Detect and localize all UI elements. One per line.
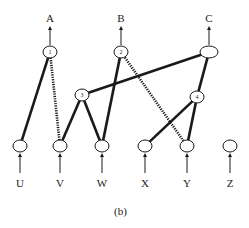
- output-label: B: [117, 12, 124, 24]
- input-arrow-icon: [58, 153, 62, 173]
- input-arrow-icon: [18, 153, 22, 173]
- input-label: W: [97, 177, 108, 189]
- input-node-v: [53, 140, 67, 152]
- svg-text:2: 2: [120, 49, 123, 55]
- svg-text:4: 4: [196, 94, 199, 100]
- caption: (b): [114, 205, 127, 217]
- hidden-node-3: 3: [75, 89, 89, 101]
- solid-edge: [22, 58, 48, 141]
- output-node-a: 1: [43, 46, 57, 58]
- input-label: Z: [227, 177, 234, 189]
- input-node-x: [138, 140, 152, 152]
- svg-text:3: 3: [81, 92, 84, 98]
- input-label: Y: [183, 177, 191, 189]
- output-arrow-icon: [119, 26, 123, 45]
- input-node-u: [13, 140, 27, 152]
- input-label: X: [141, 177, 149, 189]
- output-label: C: [205, 12, 212, 24]
- output-label: A: [46, 12, 54, 24]
- output-node-c: [200, 46, 218, 58]
- solid-edge: [199, 58, 208, 91]
- input-node-y: [180, 140, 194, 152]
- input-arrow-icon: [228, 153, 232, 173]
- output-node-b: 2: [114, 46, 128, 58]
- input-label: U: [16, 177, 24, 189]
- dotted-edge: [51, 58, 60, 140]
- input-node-z: [223, 140, 237, 152]
- svg-text:1: 1: [49, 49, 52, 55]
- solid-edge: [84, 101, 100, 141]
- solid-edge: [62, 101, 79, 141]
- hidden-node-4: 4: [190, 91, 204, 103]
- input-arrow-icon: [143, 153, 147, 173]
- solid-edge: [103, 58, 120, 140]
- input-label: V: [56, 177, 64, 189]
- output-arrow-icon: [48, 26, 52, 45]
- output-arrow-icon: [207, 26, 211, 45]
- input-node-w: [95, 140, 109, 152]
- solid-edge: [188, 103, 196, 140]
- solid-edge: [149, 101, 192, 142]
- input-arrow-icon: [100, 153, 104, 173]
- network-diagram: 1A2BC34UVWXYZ: [0, 0, 249, 228]
- input-arrow-icon: [185, 153, 189, 173]
